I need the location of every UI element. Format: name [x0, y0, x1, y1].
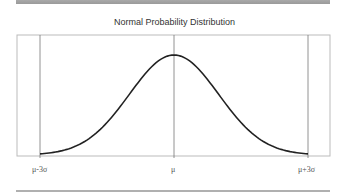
plot-frame: [17, 35, 330, 156]
bottom-divider-bar: [16, 190, 330, 192]
tick-label-plus-3sigma: μ+3σ: [298, 165, 315, 174]
tick-label-minus-3sigma: μ-3σ: [32, 165, 47, 174]
chart-plot-area: [0, 0, 349, 192]
tick-label-mu: μ: [171, 165, 175, 174]
